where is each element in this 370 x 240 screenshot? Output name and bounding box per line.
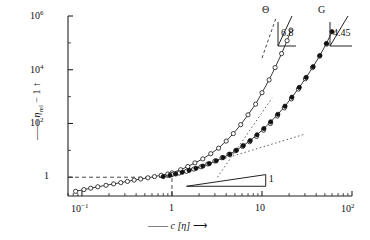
plot-canvas (0, 0, 370, 240)
theta-branch-label: Θ (262, 4, 269, 15)
slope-one-value-label: 1 (269, 173, 274, 184)
y-tick-label-1: 1 (44, 170, 49, 181)
good-solvent-branch-label: G (318, 4, 325, 15)
figure-log-log-viscosity-plot: 106 104 102 1 10−1 1 10 102 —— c [η] ⟶ —… (0, 0, 370, 240)
x-axis-title: —— c [η] ⟶ (148, 220, 207, 231)
theta-slope-value-label: 6.8 (281, 27, 294, 38)
x-tick-label-100: 102 (341, 202, 355, 214)
good-solvent-slope-value-label: 4.45 (333, 27, 351, 38)
y-axis-title: —— ηrel − 1 ↑ (31, 51, 45, 171)
y-tick-label-1000000: 106 (30, 9, 44, 21)
x-tick-label-0-1: 10−1 (71, 202, 88, 214)
axis-group (68, 16, 352, 196)
x-tick-label-10: 10 (255, 202, 265, 213)
x-tick-label-1: 1 (169, 202, 174, 213)
markers-group (74, 28, 335, 194)
